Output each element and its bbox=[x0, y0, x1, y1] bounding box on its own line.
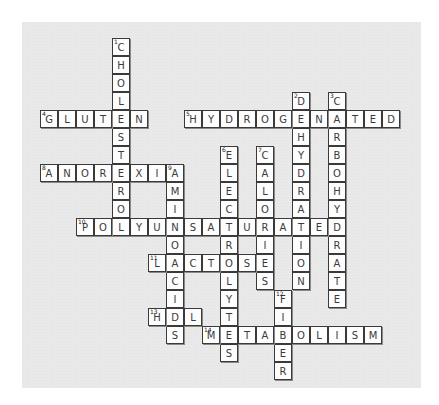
crossword-cell[interactable]: 13H bbox=[148, 308, 166, 326]
crossword-cell[interactable]: T bbox=[292, 218, 310, 236]
crossword-cell[interactable]: O bbox=[112, 74, 130, 92]
crossword-cell[interactable]: D bbox=[328, 218, 346, 236]
crossword-cell[interactable]: L bbox=[112, 92, 130, 110]
crossword-cell[interactable]: G bbox=[274, 110, 292, 128]
crossword-cell[interactable]: O bbox=[112, 200, 130, 218]
crossword-cell[interactable]: E bbox=[310, 218, 328, 236]
crossword-cell[interactable]: D bbox=[220, 110, 238, 128]
crossword-cell[interactable]: I bbox=[148, 164, 166, 182]
crossword-cell[interactable]: 10P bbox=[76, 218, 94, 236]
crossword-cell[interactable]: O bbox=[94, 218, 112, 236]
crossword-cell[interactable]: 14M bbox=[202, 326, 220, 344]
crossword-cell[interactable]: Y bbox=[292, 146, 310, 164]
crossword-cell[interactable]: A bbox=[202, 218, 220, 236]
crossword-cell[interactable]: O bbox=[256, 110, 274, 128]
crossword-cell[interactable]: R bbox=[292, 182, 310, 200]
crossword-cell[interactable]: 1C bbox=[112, 38, 130, 56]
crossword-cell[interactable]: N bbox=[166, 218, 184, 236]
crossword-cell[interactable]: O bbox=[76, 164, 94, 182]
crossword-cell[interactable]: C bbox=[166, 272, 184, 290]
crossword-cell[interactable]: 11L bbox=[148, 254, 166, 272]
crossword-cell[interactable]: N bbox=[310, 110, 328, 128]
crossword-cell[interactable]: E bbox=[112, 164, 130, 182]
crossword-cell[interactable]: C bbox=[220, 200, 238, 218]
crossword-cell[interactable]: E bbox=[220, 326, 238, 344]
crossword-cell[interactable]: S bbox=[346, 326, 364, 344]
crossword-cell[interactable]: Y bbox=[130, 218, 148, 236]
crossword-cell[interactable]: T bbox=[220, 218, 238, 236]
crossword-cell[interactable]: H bbox=[292, 128, 310, 146]
crossword-cell[interactable]: R bbox=[220, 236, 238, 254]
crossword-cell[interactable]: S bbox=[166, 326, 184, 344]
crossword-cell[interactable]: R bbox=[274, 362, 292, 380]
crossword-cell[interactable]: S bbox=[238, 254, 256, 272]
crossword-cell[interactable]: H bbox=[328, 182, 346, 200]
crossword-cell[interactable]: 5H bbox=[184, 110, 202, 128]
crossword-cell[interactable]: L bbox=[112, 218, 130, 236]
crossword-cell[interactable]: R bbox=[94, 164, 112, 182]
crossword-cell[interactable]: 3C bbox=[328, 92, 346, 110]
crossword-cell[interactable]: X bbox=[130, 164, 148, 182]
crossword-cell[interactable]: L bbox=[220, 164, 238, 182]
crossword-cell[interactable]: O bbox=[292, 254, 310, 272]
crossword-cell[interactable]: L bbox=[256, 182, 274, 200]
crossword-cell[interactable]: A bbox=[292, 200, 310, 218]
crossword-cell[interactable]: O bbox=[256, 200, 274, 218]
crossword-cell[interactable]: O bbox=[220, 254, 238, 272]
crossword-cell[interactable]: N bbox=[58, 164, 76, 182]
crossword-cell[interactable]: 8A bbox=[40, 164, 58, 182]
crossword-cell[interactable]: L bbox=[220, 272, 238, 290]
crossword-cell[interactable]: R bbox=[256, 218, 274, 236]
crossword-cell[interactable]: E bbox=[256, 254, 274, 272]
crossword-cell[interactable]: I bbox=[256, 236, 274, 254]
crossword-cell[interactable]: A bbox=[256, 164, 274, 182]
crossword-cell[interactable]: D bbox=[382, 110, 400, 128]
crossword-cell[interactable]: Y bbox=[328, 200, 346, 218]
crossword-cell[interactable]: O bbox=[166, 236, 184, 254]
crossword-cell[interactable]: S bbox=[184, 218, 202, 236]
crossword-cell[interactable]: N bbox=[292, 272, 310, 290]
crossword-cell[interactable]: N bbox=[130, 110, 148, 128]
crossword-cell[interactable]: M bbox=[166, 182, 184, 200]
crossword-cell[interactable]: E bbox=[220, 182, 238, 200]
crossword-cell[interactable]: B bbox=[328, 146, 346, 164]
crossword-cell[interactable]: E bbox=[274, 344, 292, 362]
crossword-cell[interactable]: U bbox=[76, 110, 94, 128]
crossword-cell[interactable]: T bbox=[238, 326, 256, 344]
crossword-cell[interactable]: D bbox=[292, 164, 310, 182]
crossword-cell[interactable]: E bbox=[328, 290, 346, 308]
crossword-cell[interactable]: T bbox=[346, 110, 364, 128]
crossword-cell[interactable]: I bbox=[166, 290, 184, 308]
crossword-cell[interactable]: 7C bbox=[256, 146, 274, 164]
crossword-cell[interactable]: S bbox=[112, 128, 130, 146]
crossword-cell[interactable]: E bbox=[112, 110, 130, 128]
crossword-cell[interactable]: L bbox=[58, 110, 76, 128]
crossword-cell[interactable]: T bbox=[202, 254, 220, 272]
crossword-cell[interactable]: T bbox=[94, 110, 112, 128]
crossword-cell[interactable]: D bbox=[166, 308, 184, 326]
crossword-cell[interactable]: R bbox=[328, 128, 346, 146]
crossword-cell[interactable]: T bbox=[112, 146, 130, 164]
crossword-cell[interactable]: A bbox=[328, 254, 346, 272]
crossword-cell[interactable]: T bbox=[328, 272, 346, 290]
crossword-cell[interactable]: A bbox=[256, 326, 274, 344]
crossword-cell[interactable]: S bbox=[256, 272, 274, 290]
crossword-cell[interactable]: A bbox=[274, 218, 292, 236]
crossword-cell[interactable]: 9A bbox=[166, 164, 184, 182]
crossword-cell[interactable]: E bbox=[364, 110, 382, 128]
crossword-cell[interactable]: U bbox=[148, 218, 166, 236]
crossword-cell[interactable]: I bbox=[328, 326, 346, 344]
crossword-cell[interactable]: 2D bbox=[292, 92, 310, 110]
crossword-cell[interactable]: I bbox=[292, 236, 310, 254]
crossword-cell[interactable]: Y bbox=[220, 290, 238, 308]
crossword-cell[interactable]: O bbox=[328, 164, 346, 182]
crossword-cell[interactable]: U bbox=[238, 218, 256, 236]
crossword-cell[interactable]: C bbox=[184, 254, 202, 272]
crossword-cell[interactable]: 6E bbox=[220, 146, 238, 164]
crossword-cell[interactable]: 12F bbox=[274, 290, 292, 308]
crossword-cell[interactable]: M bbox=[364, 326, 382, 344]
crossword-cell[interactable]: R bbox=[238, 110, 256, 128]
crossword-cell[interactable]: A bbox=[166, 254, 184, 272]
crossword-cell[interactable]: A bbox=[328, 110, 346, 128]
crossword-cell[interactable]: R bbox=[328, 236, 346, 254]
